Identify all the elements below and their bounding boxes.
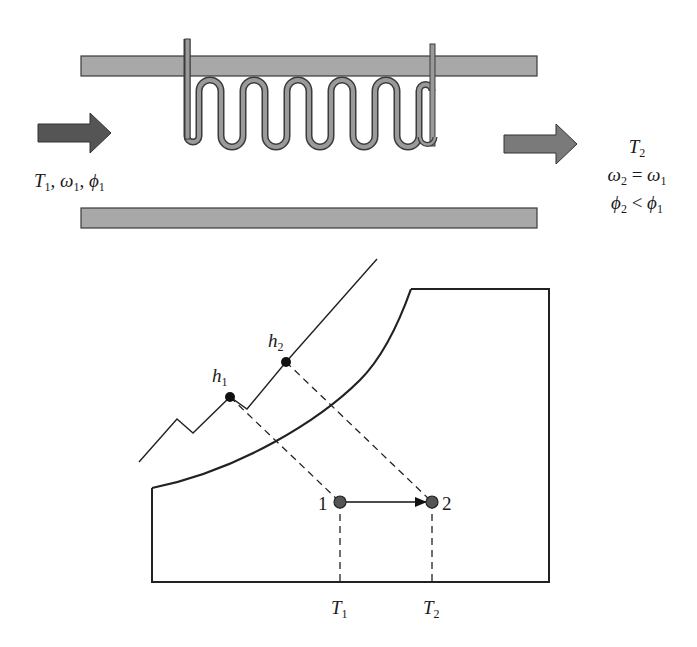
- operator: <: [627, 192, 647, 213]
- subscript: 2: [639, 146, 645, 160]
- symbol-T: T: [423, 597, 434, 618]
- symbol-T: T: [331, 597, 342, 618]
- enthalpy-point-h1: [225, 392, 235, 402]
- coil-outlet-lead: [430, 44, 435, 146]
- diagram-canvas: [0, 0, 697, 647]
- symbol-phi: ϕ: [647, 192, 657, 213]
- symbol-omega: ω: [607, 164, 620, 185]
- state-point-1: [334, 496, 346, 508]
- duct-bottom-wall: [81, 208, 537, 228]
- symbol-omega: ω: [647, 164, 660, 185]
- separator: ,: [80, 170, 90, 191]
- subscript: 1: [222, 375, 228, 389]
- symbol-omega: ω: [60, 170, 73, 191]
- state-label-2: 2: [442, 494, 452, 513]
- enthalpy-point-h2: [281, 357, 291, 367]
- symbol-T: T: [629, 136, 640, 157]
- subscript: 1: [99, 180, 105, 194]
- symbol-T: T: [34, 170, 45, 191]
- outlet-temperature: T2: [587, 136, 687, 164]
- subscript: 2: [278, 340, 284, 354]
- symbol-phi: ϕ: [611, 192, 621, 213]
- temperature-label-T1: T1: [331, 598, 348, 620]
- psychrometric-chart: [139, 259, 549, 582]
- symbol-phi: ϕ: [89, 170, 99, 191]
- temperature-label-T2: T2: [423, 598, 440, 620]
- subscript: 1: [661, 174, 667, 188]
- subscript: 2: [434, 607, 440, 621]
- state-label-1: 1: [318, 494, 328, 513]
- coil-inlet-lead: [185, 39, 190, 139]
- symbol-h: h: [268, 330, 278, 351]
- enthalpy-scale-line: [139, 259, 377, 462]
- enthalpy-line-h1: [230, 397, 340, 502]
- symbol-h: h: [212, 365, 222, 386]
- enthalpy-line-h2: [286, 362, 432, 502]
- chart-boundary: [152, 289, 549, 582]
- duct-top-wall: [81, 56, 537, 76]
- outlet-relative-humidity: ϕ2 < ϕ1: [587, 192, 687, 220]
- enthalpy-label-h1: h1: [212, 366, 228, 388]
- separator: ,: [51, 170, 61, 191]
- subscript: 1: [657, 202, 663, 216]
- subscript: 1: [342, 607, 348, 621]
- inlet-air-arrow: [38, 113, 111, 153]
- enthalpy-label-h2: h2: [268, 331, 284, 353]
- state-point-2: [426, 496, 438, 508]
- inlet-state-label: T1, ω1, ϕ1: [34, 171, 105, 193]
- operator: =: [627, 164, 647, 185]
- saturation-curve: [152, 289, 411, 488]
- heating-coil: [185, 39, 435, 147]
- outlet-state-label: T2 ω2 = ω1 ϕ2 < ϕ1: [587, 136, 687, 220]
- outlet-humidity-ratio: ω2 = ω1: [587, 164, 687, 192]
- outlet-air-arrow: [504, 124, 577, 164]
